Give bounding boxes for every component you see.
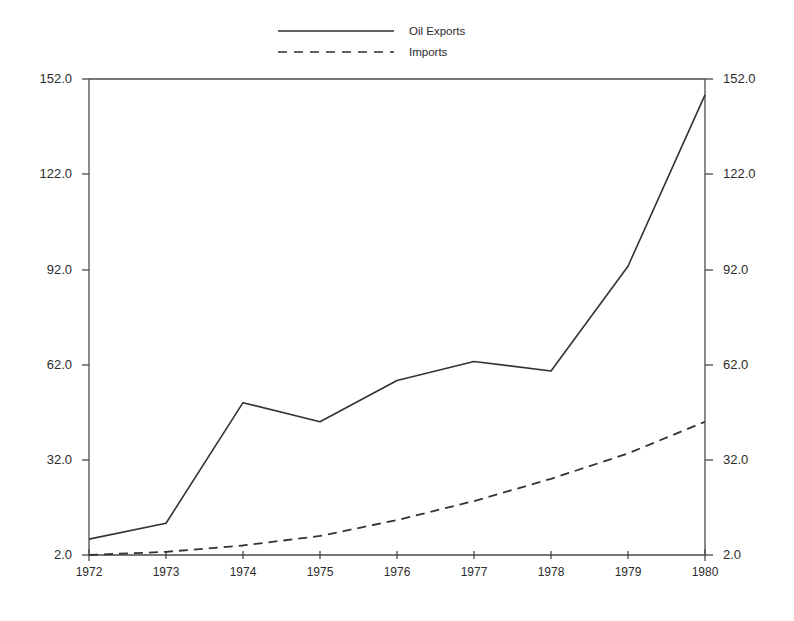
x-tick-label-1978: 1978	[538, 565, 565, 579]
line-chart: Oil Exports Imports 152.0 122.0 92.0 62.…	[0, 0, 794, 621]
legend-label-oil-exports: Oil Exports	[409, 25, 465, 37]
y-tick-label-right-152: 152.0	[723, 71, 756, 86]
x-tick-label-1974: 1974	[230, 565, 257, 579]
y-tick-label-left-152: 152.0	[39, 71, 72, 86]
y-tick-label-left-122: 122.0	[39, 166, 72, 181]
y-tick-label-left-62: 62.0	[47, 357, 72, 372]
chart-background	[0, 0, 794, 621]
x-tick-label-1975: 1975	[307, 565, 334, 579]
x-tick-label-1979: 1979	[615, 565, 642, 579]
y-tick-label-right-92: 92.0	[723, 262, 748, 277]
y-tick-label-right-62: 62.0	[723, 357, 748, 372]
y-tick-label-left-2: 2.0	[54, 547, 72, 562]
x-tick-label-1972: 1972	[76, 565, 103, 579]
x-tick-label-1976: 1976	[384, 565, 411, 579]
y-tick-label-right-2: 2.0	[723, 547, 741, 562]
y-tick-label-right-32: 32.0	[723, 452, 748, 467]
legend-label-imports: Imports	[409, 46, 448, 58]
y-tick-label-left-32: 32.0	[47, 452, 72, 467]
x-tick-label-1973: 1973	[153, 565, 180, 579]
x-tick-label-1977: 1977	[461, 565, 488, 579]
y-tick-label-right-122: 122.0	[723, 166, 756, 181]
y-tick-label-left-92: 92.0	[47, 262, 72, 277]
x-tick-label-1980: 1980	[692, 565, 719, 579]
